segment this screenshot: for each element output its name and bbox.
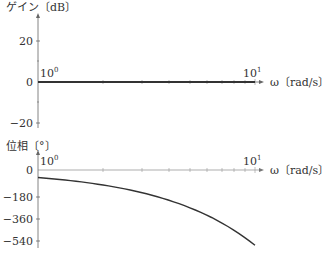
phase-x-arrow-icon: [259, 168, 264, 172]
gain-x-tick-1: 100: [40, 66, 58, 80]
phase-x-tick-10: 101: [243, 154, 261, 168]
gain-omega-label: ω〔rad/s〕: [270, 76, 329, 89]
gain-tick-0: 0: [26, 76, 33, 89]
gain-axis-label: ゲイン〔dB〕: [6, 1, 76, 14]
phase-tick-0: 0: [26, 164, 33, 177]
bode-plot: ゲイン〔dB〕 20 0 −20 100 101 ω〔rad/s〕: [0, 0, 329, 262]
gain-x-arrow-icon: [259, 80, 264, 84]
gain-tick-m20: −20: [10, 117, 33, 130]
gain-x-tick-10: 101: [243, 66, 261, 80]
phase-x-tick-1: 100: [40, 154, 58, 168]
gain-tick-20: 20: [19, 35, 33, 48]
phase-axis-label: 位相〔°〕: [6, 139, 56, 153]
phase-tick-m360: −360: [3, 213, 33, 226]
phase-tick-m540: −540: [3, 235, 33, 248]
phase-tick-m180: −180: [3, 191, 33, 204]
phase-plot: 位相〔°〕 0 −180 −360 −540 100 101 ω〔rad/s〕: [3, 139, 329, 248]
phase-curve: [38, 178, 255, 246]
phase-omega-label: ω〔rad/s〕: [270, 164, 329, 177]
gain-plot: ゲイン〔dB〕 20 0 −20 100 101 ω〔rad/s〕: [6, 1, 329, 130]
